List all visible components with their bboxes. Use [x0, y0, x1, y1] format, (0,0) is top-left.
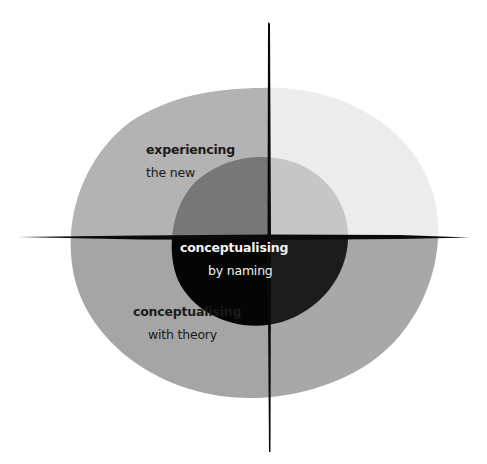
- label-conceptualising-theory-title: conceptualising: [133, 304, 241, 319]
- label-experiencing-subtitle: the new: [146, 165, 195, 180]
- label-conceptualising-naming-title: conceptualising: [180, 240, 288, 255]
- concept-quadrant-diagram: [0, 0, 487, 464]
- label-conceptualising-theory-subtitle: with theory: [148, 327, 217, 342]
- label-experiencing-title: experiencing: [146, 142, 235, 157]
- label-conceptualising-naming-subtitle: by naming: [208, 263, 273, 278]
